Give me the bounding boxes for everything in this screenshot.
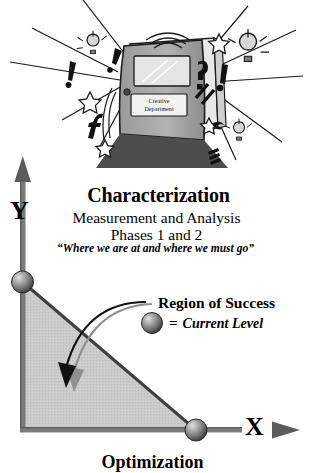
current-level-marker-x[interactable]: [185, 419, 207, 441]
creative-department-illustration: Creative Department: [0, 0, 305, 168]
y-axis-label: Y: [10, 196, 29, 226]
door-sign-line2: Department: [144, 105, 173, 112]
optimization-label: Optimization: [0, 452, 305, 473]
subtitle-measurement: Measurement and Analysis: [4, 209, 309, 227]
arrow-right-icon: [272, 422, 300, 439]
callout-arrow: [58, 302, 152, 392]
legend-current-level: = Current Level: [142, 315, 263, 332]
x-axis-label: X: [245, 412, 264, 442]
region-of-success-label: Region of Success: [158, 294, 275, 312]
current-level-marker-y[interactable]: [12, 271, 34, 293]
page-title: Characterization: [6, 184, 311, 207]
legend-label: Current Level: [183, 316, 264, 332]
door-shadow: [96, 134, 228, 168]
door-sign-line1: Creative: [149, 97, 170, 104]
subtitle-quote: “Where we are at and where we must go”: [3, 242, 308, 254]
legend-equals-sign: =: [169, 315, 178, 332]
